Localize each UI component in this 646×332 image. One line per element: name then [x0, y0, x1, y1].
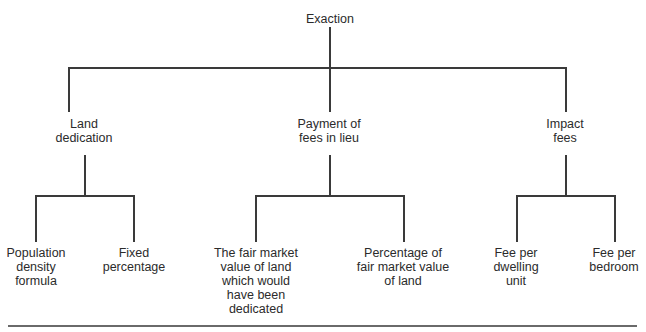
node-land-dedication: Land dedication: [56, 117, 113, 145]
connector-payment-right: [403, 195, 405, 242]
node-percentage-fair-market-value: Percentage of fair market value of land: [357, 246, 449, 288]
connector-impact-down: [565, 155, 567, 195]
connector-impact-right: [614, 195, 616, 242]
node-impact-fees: Impact fees: [546, 117, 584, 145]
connector-impact-bar: [516, 195, 615, 197]
connector-payment-bar: [255, 195, 404, 197]
connector-land-left: [35, 195, 37, 242]
node-fair-market-value-dedicated: The fair market value of land which woul…: [214, 246, 298, 316]
node-fixed-percentage: Fixed percentage: [103, 246, 166, 274]
node-population-density-formula: Population density formula: [6, 246, 65, 288]
connector-to-land-dedication: [68, 67, 70, 112]
connector-land-right: [133, 195, 135, 242]
connector-level1-bar: [68, 67, 566, 69]
connector-impact-left: [516, 195, 518, 242]
node-payment-fees-in-lieu: Payment of fees in lieu: [297, 117, 360, 145]
connector-land-bar: [35, 195, 133, 197]
node-root: Exaction: [306, 12, 354, 26]
connector-root-down: [329, 27, 331, 112]
connector-to-impact-fees: [565, 67, 567, 112]
connector-payment-left: [255, 195, 257, 242]
connector-land-down: [84, 155, 86, 195]
bottom-divider: [8, 325, 637, 327]
connector-payment-down: [329, 155, 331, 195]
node-fee-per-bedroom: Fee per bedroom: [589, 246, 638, 274]
node-fee-per-dwelling-unit: Fee per dwelling unit: [493, 246, 538, 288]
